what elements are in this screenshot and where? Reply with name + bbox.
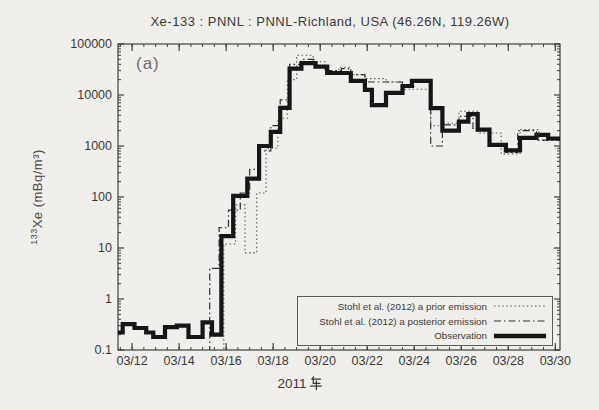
y-axis-label-text: Xe (mBq/m³) <box>30 149 45 228</box>
dotted-line-sample-icon <box>493 300 547 312</box>
svg-text:03/26: 03/26 <box>446 354 477 368</box>
svg-text:03/14: 03/14 <box>163 354 194 368</box>
svg-text:03/30: 03/30 <box>540 354 571 368</box>
svg-text:03/20: 03/20 <box>305 354 336 368</box>
svg-text:0.1: 0.1 <box>95 343 112 357</box>
thick-line-sample-icon <box>493 330 547 342</box>
svg-text:03/24: 03/24 <box>399 354 430 368</box>
legend-item-prior: Stohl et al. (2012) a prior emission <box>303 300 547 313</box>
svg-text:1000: 1000 <box>84 139 112 153</box>
panel-label: (a) <box>136 54 160 74</box>
svg-text:03/12: 03/12 <box>116 354 147 368</box>
legend-item-posterior: Stohl et al. (2012) a posterior emission <box>303 315 547 328</box>
chart-legend: Stohl et al. (2012) a prior emission Sto… <box>297 296 553 346</box>
svg-text:03/28: 03/28 <box>493 354 524 368</box>
legend-item-observation: Observation <box>303 329 547 342</box>
x-axis-year: 2011 <box>277 376 306 391</box>
xenon-timeseries-figure: 03/1203/1403/1603/1803/2003/2203/2403/26… <box>0 0 599 410</box>
svg-text:100000: 100000 <box>70 37 112 51</box>
y-axis-label: 133Xe (mBq/m³) <box>29 149 45 245</box>
chart-title: Xe-133 : PNNL : PNNL-Richland, USA (46.2… <box>70 14 590 29</box>
svg-text:100: 100 <box>91 190 112 204</box>
x-axis-label: 2011 <box>0 376 599 393</box>
legend-label-prior: Stohl et al. (2012) a prior emission <box>338 300 487 313</box>
svg-text:03/22: 03/22 <box>352 354 383 368</box>
kanji-year-glyph <box>309 376 322 393</box>
svg-text:10: 10 <box>98 241 112 255</box>
svg-text:1: 1 <box>105 292 112 306</box>
isotope-superscript: 133 <box>29 228 39 245</box>
legend-label-posterior: Stohl et al. (2012) a posterior emission <box>319 315 487 328</box>
chart-plot-area: 03/1203/1403/1603/1803/2003/2203/2403/26… <box>0 0 599 410</box>
svg-text:03/16: 03/16 <box>211 354 242 368</box>
dashdot-line-sample-icon <box>493 315 547 327</box>
svg-text:10000: 10000 <box>77 88 112 102</box>
legend-label-observation: Observation <box>434 329 487 342</box>
svg-text:03/18: 03/18 <box>258 354 289 368</box>
